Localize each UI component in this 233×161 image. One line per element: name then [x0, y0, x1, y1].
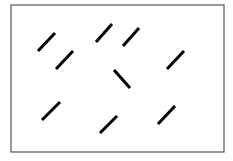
visual-search-diagram: [0, 0, 233, 161]
stimulus-frame: [11, 5, 224, 152]
